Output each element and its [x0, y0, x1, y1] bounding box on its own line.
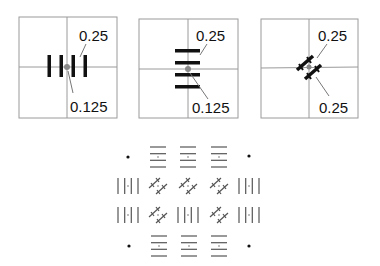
grid-cell-diagonal: [210, 178, 228, 194]
grid-cell-horizontal: [151, 236, 167, 256]
label-spacing: 0.25: [318, 27, 347, 44]
grid-cell-horizontal: [150, 147, 166, 167]
grid-cell-diagonal: [149, 207, 167, 223]
label-width: 0.125: [70, 98, 108, 115]
grid-cell-horizontal: [211, 147, 227, 167]
grid-cell-vertical: [178, 207, 198, 223]
grid-cell-dot: [127, 244, 130, 247]
label-spacing: 0.25: [196, 27, 225, 44]
grid-cell-horizontal: [211, 236, 227, 256]
diagram-canvas: 0.25 0.125 0.25 0.125: [0, 0, 380, 266]
grid-cell-diagonal: [179, 178, 197, 194]
center-dot: [307, 65, 312, 70]
center-dot: [64, 64, 70, 70]
grid-cell-vertical: [239, 207, 259, 223]
grid-cell-dot: [247, 244, 250, 247]
label-spacing: 0.25: [79, 27, 108, 44]
leader-line-top: [200, 44, 207, 55]
glyph-grid: [118, 147, 259, 256]
grid-cell-dot: [126, 155, 129, 158]
grid-cell-dot: [247, 154, 250, 157]
grid-row-2: [118, 178, 259, 194]
panel-vertical: 0.25 0.125: [19, 17, 117, 118]
grid-cell-vertical: [239, 178, 259, 194]
center-dot: [185, 66, 191, 72]
label-spacing-2: 0.25: [319, 99, 348, 116]
label-width: 0.125: [192, 99, 230, 116]
grid-row-1: [126, 147, 250, 167]
grid-row-4: [127, 236, 250, 256]
panel-horizontal: 0.25 0.125: [139, 19, 238, 118]
grid-cell-vertical: [118, 207, 138, 223]
grid-row-3: [118, 207, 259, 223]
leader-line-top: [317, 44, 327, 58]
grid-cell-diagonal: [210, 207, 228, 223]
grid-cell-vertical: [118, 178, 138, 194]
grid-cell-diagonal: [149, 178, 167, 194]
leader-line-bottom: [316, 77, 329, 96]
grid-cell-horizontal: [180, 147, 196, 167]
panel-diagonal: 0.25 0.25: [261, 19, 358, 118]
grid-cell-horizontal: [181, 236, 197, 256]
